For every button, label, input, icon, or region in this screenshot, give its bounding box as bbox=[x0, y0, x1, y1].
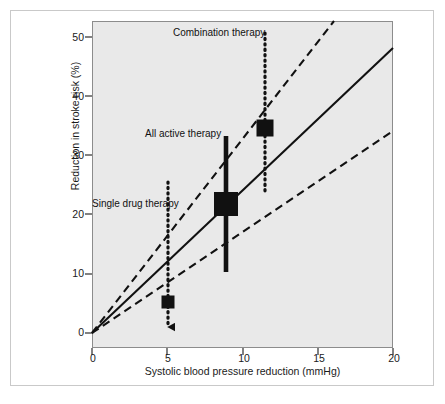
figure-container: 50 40 30 20 10 0 0 5 10 15 20 Reduction … bbox=[0, 0, 445, 404]
annotation-combination-therapy: Combination therapy bbox=[173, 27, 265, 38]
y-tick-marks bbox=[85, 37, 92, 333]
upper-ci-line bbox=[92, 21, 334, 333]
annotation-single-drug-therapy: Single drug therapy bbox=[92, 198, 179, 209]
plot-graphics bbox=[0, 0, 445, 404]
lower-ci-line bbox=[92, 131, 393, 333]
annotation-all-active-therapy: All active therapy bbox=[145, 128, 221, 139]
all-active-marker bbox=[214, 192, 238, 216]
combination-marker bbox=[257, 120, 274, 137]
x-tick-marks bbox=[92, 348, 393, 355]
regression-line bbox=[92, 48, 393, 333]
single-drug-marker bbox=[162, 296, 175, 309]
